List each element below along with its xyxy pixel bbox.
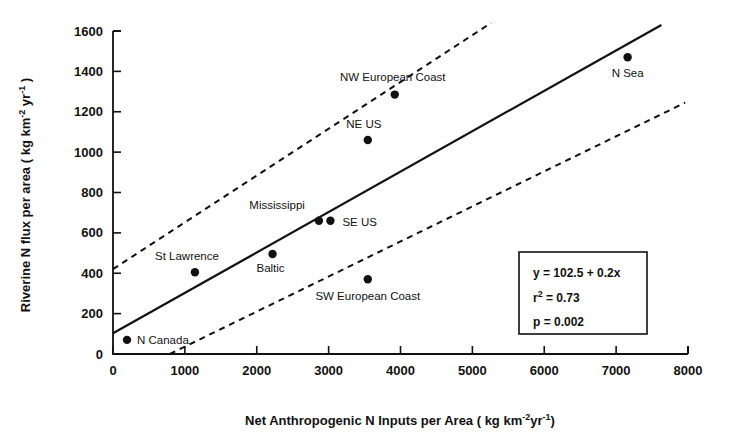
data-point-label: SE US — [342, 216, 377, 228]
y-title-sup1: -2 — [17, 110, 27, 118]
y-tick-label: 800 — [81, 185, 103, 200]
y-tick-label: 400 — [81, 266, 103, 281]
data-point-marker — [364, 275, 372, 283]
x-axis-tick-labels: 010002000300040005000600070008000 — [109, 363, 702, 378]
riverine-nitrogen-flux-scatter-chart: 02004006008001000120014001600 0100020003… — [0, 0, 731, 441]
x-tick-label: 0 — [109, 363, 116, 378]
x-tick-label: 7000 — [602, 363, 631, 378]
x-tick-label: 3000 — [314, 363, 343, 378]
x-axis-title: Net Anthropogenic N Inputs per Area ( kg… — [245, 412, 555, 428]
x-tick-label: 4000 — [386, 363, 415, 378]
data-point-marker — [123, 336, 131, 344]
y-title-tail: ) — [18, 78, 33, 86]
x-title-sup1: -2 — [522, 412, 530, 422]
data-point-marker — [364, 136, 372, 144]
y-tick-label: 1400 — [74, 64, 103, 79]
r-squared-value: = 0.73 — [543, 291, 580, 305]
x-axis-title-text: Net Anthropogenic N Inputs per Area ( kg… — [245, 412, 555, 428]
x-title-tail: ) — [551, 413, 555, 428]
regression-equation-text: y = 102.5 + 0.2x — [533, 266, 621, 280]
data-point-marker — [391, 90, 399, 98]
data-point-label: Mississippi — [249, 199, 305, 211]
data-point-marker — [326, 217, 334, 225]
y-tick-label: 1600 — [74, 24, 103, 39]
x-title-mid: yr — [530, 413, 542, 428]
y-title-main: Riverine N flux per area ( kg km — [18, 118, 33, 312]
p-value-text: p = 0.002 — [533, 315, 584, 329]
x-tick-label: 5000 — [458, 363, 487, 378]
data-point-label: SW European Coast — [315, 290, 421, 302]
data-point-marker — [315, 217, 323, 225]
data-point-label: N Canada — [137, 334, 189, 346]
y-title-mid: yr — [18, 94, 33, 110]
x-tick-label: 6000 — [530, 363, 559, 378]
x-title-main: Net Anthropogenic N Inputs per Area ( kg… — [245, 413, 522, 428]
x-tick-label: 2000 — [242, 363, 271, 378]
y-tick-label: 0 — [96, 347, 103, 362]
y-title-sup2: -1 — [17, 86, 27, 94]
x-tick-label: 1000 — [170, 363, 199, 378]
data-point-marker — [623, 53, 631, 61]
data-point-marker — [268, 250, 276, 258]
y-tick-label: 1200 — [74, 104, 103, 119]
data-point-marker — [191, 268, 199, 276]
data-point-label: St Lawrence — [155, 250, 219, 262]
y-tick-label: 600 — [81, 225, 103, 240]
data-point-label: NW European Coast — [340, 71, 446, 83]
x-tick-label: 8000 — [674, 363, 703, 378]
y-tick-label: 200 — [81, 306, 103, 321]
data-point-label: NE US — [346, 118, 381, 130]
data-point-label: Baltic — [257, 262, 285, 274]
y-tick-label: 1000 — [74, 145, 103, 160]
x-title-sup2: -1 — [543, 412, 551, 422]
data-point-label: N Sea — [612, 67, 645, 79]
